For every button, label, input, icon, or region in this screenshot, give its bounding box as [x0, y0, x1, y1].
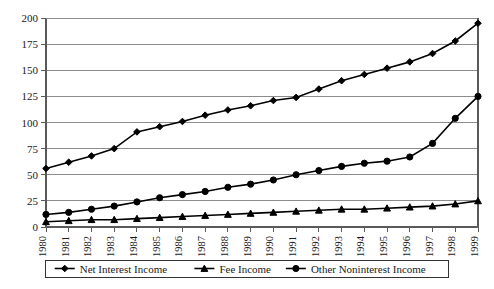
legend-item-label: Fee Income	[219, 263, 271, 275]
y-tick-label: 0	[33, 221, 39, 233]
x-tick-label: 1983	[105, 236, 116, 257]
gridlines-group	[46, 18, 478, 201]
data-point-diamond	[270, 97, 277, 104]
x-tick-label: 1988	[219, 236, 230, 257]
x-tick-label: 1991	[287, 236, 298, 257]
data-point-circle	[202, 188, 208, 194]
x-tick-label: 1980	[37, 236, 48, 257]
data-point-diamond	[316, 86, 323, 93]
data-point-diamond	[293, 94, 300, 101]
data-point-circle	[452, 115, 458, 121]
data-point-circle	[338, 163, 344, 169]
y-tick-label: 200	[22, 12, 39, 24]
data-point-circle	[293, 265, 299, 271]
data-point-circle	[225, 184, 231, 190]
y-tick-label: 125	[22, 90, 39, 102]
data-point-circle	[407, 154, 413, 160]
series-fee-income	[43, 197, 482, 224]
x-tick-label: 1994	[355, 235, 366, 257]
y-axis-group: 0255075100125150175200	[22, 12, 47, 233]
y-tick-label: 100	[22, 117, 39, 129]
series-line	[46, 201, 478, 222]
x-tick-label: 1999	[469, 236, 480, 257]
data-point-diamond	[247, 102, 254, 109]
data-point-circle	[316, 167, 322, 173]
x-tick-label: 1996	[401, 236, 412, 257]
data-point-circle	[134, 199, 140, 205]
data-point-circle	[248, 181, 254, 187]
series-other-noninterest-income	[43, 93, 481, 217]
x-tick-label: 1997	[424, 236, 435, 257]
data-point-circle	[361, 160, 367, 166]
y-tick-label: 150	[22, 64, 39, 76]
data-point-diamond	[43, 165, 50, 172]
data-point-diamond	[156, 123, 163, 130]
data-point-circle	[475, 93, 481, 99]
y-tick-label: 25	[27, 195, 39, 207]
data-point-circle	[66, 209, 72, 215]
data-point-circle	[293, 172, 299, 178]
series-line	[46, 96, 478, 214]
data-point-circle	[157, 195, 163, 201]
x-tick-label: 1984	[128, 235, 139, 257]
data-point-circle	[43, 211, 49, 217]
x-tick-label: 1981	[60, 236, 71, 257]
data-point-circle	[179, 192, 185, 198]
data-point-diamond	[202, 112, 209, 119]
legend-item-label: Net Interest Income	[80, 263, 167, 275]
x-tick-label: 1993	[333, 236, 344, 257]
x-tick-label: 1982	[82, 236, 93, 257]
data-point-circle	[429, 140, 435, 146]
y-tick-label: 175	[22, 38, 39, 50]
series-line	[46, 23, 478, 168]
data-point-diamond	[361, 71, 368, 78]
x-tick-label: 1989	[242, 236, 253, 257]
chart-canvas: 0255075100125150175200 19801981198219831…	[0, 0, 494, 289]
data-point-diamond	[65, 159, 72, 166]
data-point-diamond	[88, 153, 95, 160]
y-tick-label: 75	[27, 143, 39, 155]
line-chart: 0255075100125150175200 19801981198219831…	[0, 0, 494, 289]
data-point-circle	[384, 158, 390, 164]
x-axis-group: 1980198119821983198419851986198719881989…	[37, 227, 480, 257]
data-point-diamond	[225, 107, 232, 114]
data-point-circle	[270, 177, 276, 183]
y-tick-label: 50	[27, 169, 39, 181]
data-point-circle	[88, 206, 94, 212]
x-tick-label: 1998	[446, 236, 457, 257]
x-tick-label: 1986	[173, 236, 184, 257]
x-tick-label: 1992	[310, 236, 321, 257]
data-point-circle	[111, 203, 117, 209]
legend-item-label: Other Noninterest Income	[311, 263, 426, 275]
data-point-diamond	[429, 50, 436, 57]
x-tick-label: 1990	[264, 236, 275, 257]
data-point-diamond	[406, 59, 413, 66]
data-point-diamond	[179, 118, 186, 125]
data-point-diamond	[338, 77, 345, 84]
chart-legend: Net Interest IncomeFee IncomeOther Nonin…	[46, 260, 449, 277]
x-tick-label: 1995	[378, 236, 389, 257]
x-tick-label: 1987	[196, 236, 207, 257]
x-tick-label: 1985	[151, 236, 162, 257]
